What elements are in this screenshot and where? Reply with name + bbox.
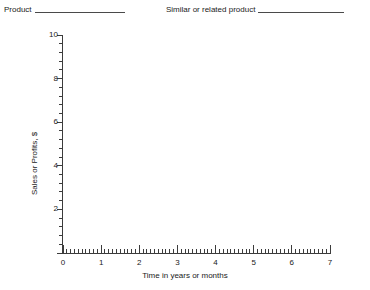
x-axis-minor-tick <box>181 249 182 254</box>
x-axis-minor-tick <box>188 249 189 254</box>
x-axis-minor-tick <box>276 249 277 254</box>
x-axis-minor-tick <box>303 249 304 254</box>
y-axis-minor-tick <box>59 52 62 53</box>
x-axis-minor-tick <box>230 249 231 254</box>
x-axis-minor-tick <box>261 249 262 254</box>
x-axis-major-tick <box>101 245 102 254</box>
x-axis-minor-tick <box>143 249 144 254</box>
x-axis-minor-tick <box>78 249 79 254</box>
x-axis-title: Time in years or months <box>0 271 370 280</box>
x-axis-minor-tick <box>299 249 300 254</box>
x-axis-minor-tick <box>200 249 201 254</box>
x-axis-minor-tick <box>284 249 285 254</box>
y-axis-minor-tick <box>59 174 62 175</box>
x-axis-minor-tick <box>154 249 155 254</box>
worksheet-header: Product Similar or related product <box>0 0 370 22</box>
x-axis-minor-tick <box>135 249 136 254</box>
similar-product-field[interactable]: Similar or related product <box>166 5 344 14</box>
x-axis-minor-tick <box>242 249 243 254</box>
y-axis-minor-tick <box>59 61 62 62</box>
x-axis-minor-tick <box>131 249 132 254</box>
y-axis-title: Sales or Profits, $ <box>30 195 93 204</box>
x-axis-minor-tick <box>288 249 289 254</box>
x-axis-minor-tick <box>185 249 186 254</box>
y-axis-minor-tick <box>59 183 62 184</box>
x-axis-minor-tick <box>268 249 269 254</box>
x-axis-minor-tick <box>307 249 308 254</box>
x-axis-minor-tick <box>82 249 83 254</box>
x-axis-minor-tick <box>112 249 113 254</box>
x-axis-minor-tick <box>162 249 163 254</box>
x-axis-minor-tick <box>249 249 250 254</box>
x-axis-minor-tick <box>74 249 75 254</box>
x-axis-minor-tick <box>196 249 197 254</box>
x-axis-minor-tick <box>108 249 109 254</box>
x-axis-minor-tick <box>318 249 319 254</box>
x-axis-minor-tick <box>89 249 90 254</box>
y-axis-minor-tick <box>59 69 62 70</box>
x-axis-minor-tick <box>127 249 128 254</box>
x-axis-title-text: Time in years or months <box>142 271 228 280</box>
y-axis-tick-label: 10 <box>18 31 58 39</box>
x-axis-major-tick <box>139 245 140 254</box>
y-axis-minor-tick <box>59 218 62 219</box>
product-field-blank-line[interactable] <box>35 12 125 13</box>
x-axis-minor-tick <box>165 249 166 254</box>
x-axis-minor-tick <box>120 249 121 254</box>
x-axis-minor-tick <box>93 249 94 254</box>
y-axis-minor-tick <box>59 43 62 44</box>
y-axis-minor-tick <box>59 87 62 88</box>
x-axis-major-tick <box>177 245 178 254</box>
product-field[interactable]: Product <box>4 5 125 14</box>
x-axis-minor-tick <box>326 249 327 254</box>
x-axis-minor-tick <box>150 249 151 254</box>
y-axis-major-tick <box>57 253 62 254</box>
x-axis-minor-tick <box>227 249 228 254</box>
y-axis-minor-tick <box>59 148 62 149</box>
plot-area[interactable] <box>63 35 330 253</box>
y-axis-minor-tick <box>59 113 62 114</box>
x-axis-minor-tick <box>192 249 193 254</box>
x-axis-minor-tick <box>322 249 323 254</box>
x-axis-tick-label: 3 <box>167 259 187 267</box>
similar-product-field-blank-line[interactable] <box>258 12 344 13</box>
x-axis-minor-tick <box>223 249 224 254</box>
x-axis-minor-tick <box>257 249 258 254</box>
y-axis-tick-label: 2 <box>18 205 58 213</box>
x-axis-minor-tick <box>97 249 98 254</box>
x-axis-minor-tick <box>265 249 266 254</box>
x-axis-minor-tick <box>219 249 220 254</box>
x-axis-tick-label: 6 <box>282 259 302 267</box>
x-axis-major-tick <box>330 245 331 254</box>
x-axis-minor-tick <box>66 249 67 254</box>
x-axis-minor-tick <box>207 249 208 254</box>
y-axis-tick-label: 8 <box>18 75 58 83</box>
product-field-label: Product <box>4 5 32 14</box>
x-axis-minor-tick <box>104 249 105 254</box>
x-axis-major-tick <box>215 245 216 254</box>
x-axis-tick-label: 5 <box>244 259 264 267</box>
x-axis-tick-label: 7 <box>320 259 340 267</box>
x-axis-minor-tick <box>124 249 125 254</box>
x-axis-major-tick <box>291 245 292 254</box>
y-axis-minor-tick <box>59 191 62 192</box>
y-axis-line <box>62 35 63 254</box>
y-axis-minor-tick <box>59 235 62 236</box>
x-axis-minor-tick <box>234 249 235 254</box>
x-axis-minor-tick <box>314 249 315 254</box>
x-axis-tick-label: 1 <box>91 259 111 267</box>
x-axis-minor-tick <box>116 249 117 254</box>
similar-product-field-label: Similar or related product <box>166 5 255 14</box>
x-axis-tick-label: 2 <box>129 259 149 267</box>
y-axis-minor-tick <box>59 130 62 131</box>
x-axis-tick-label: 4 <box>206 259 226 267</box>
x-axis-minor-tick <box>246 249 247 254</box>
x-axis-minor-tick <box>85 249 86 254</box>
x-axis-minor-tick <box>238 249 239 254</box>
x-axis-minor-tick <box>204 249 205 254</box>
y-axis-tick-label: 6 <box>18 118 58 126</box>
x-axis-tick-label: 0 <box>53 259 73 267</box>
x-axis-minor-tick <box>158 249 159 254</box>
x-axis-minor-tick <box>146 249 147 254</box>
y-axis-minor-tick <box>59 226 62 227</box>
